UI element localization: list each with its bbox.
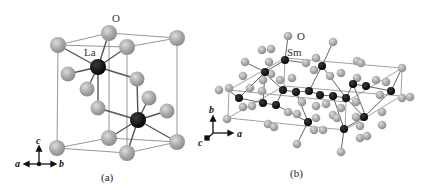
sm-atom xyxy=(259,99,267,107)
oxygen-atom xyxy=(169,30,185,46)
oxygen-atom xyxy=(91,101,106,116)
sm-atom xyxy=(235,94,243,102)
panel-b-oxygen-atoms xyxy=(215,32,415,157)
sm-atom xyxy=(261,68,269,76)
panel-a-caption: (a) xyxy=(101,171,114,184)
oxygen-label-a: O xyxy=(112,12,120,24)
panel-b: O Sm b a c (b) xyxy=(198,30,414,180)
sm-atom xyxy=(318,62,326,70)
sm-atom xyxy=(342,94,350,102)
sm-atom xyxy=(279,86,287,94)
oxygen-atom xyxy=(169,134,185,150)
axis-b-label-a: b xyxy=(59,158,64,169)
la-atom xyxy=(90,59,106,75)
oxygen-label-b: O xyxy=(297,30,305,42)
oxygen-atom xyxy=(49,140,65,156)
oxygen-atom xyxy=(50,37,66,53)
panel-a: O La c a b (a) xyxy=(15,12,185,184)
axis-c-label-a: c xyxy=(36,135,41,146)
oxygen-atom xyxy=(160,104,175,119)
samarium-label: Sm xyxy=(287,46,302,58)
sm-atom xyxy=(304,118,312,126)
lanthanum-label: La xyxy=(84,46,96,58)
axis-a-label-a: a xyxy=(15,158,20,169)
sm-atom xyxy=(362,82,370,90)
sm-atom xyxy=(360,113,368,121)
sm-atom xyxy=(305,87,313,95)
oxygen-atom xyxy=(119,145,135,161)
oxygen-atom xyxy=(101,130,117,146)
sm-atom xyxy=(349,80,357,88)
axis-c-label-b: c xyxy=(198,137,203,148)
panel-a-unit-cell xyxy=(57,33,177,153)
sm-atom xyxy=(316,91,324,99)
crystal-structure-figure: O La c a b (a) xyxy=(0,0,427,190)
oxygen-atom xyxy=(130,72,145,87)
sm-atom xyxy=(272,101,280,109)
panel-b-caption: (b) xyxy=(290,167,303,180)
sm-atom xyxy=(292,88,300,96)
axis-b-label-b: b xyxy=(209,104,214,115)
oxygen-atom xyxy=(80,82,95,97)
sm-atom xyxy=(340,125,348,133)
oxygen-atom xyxy=(142,91,157,106)
axis-a-label-b: a xyxy=(237,128,242,139)
oxygen-atom xyxy=(61,67,76,82)
sm-atom xyxy=(329,92,337,100)
la-atom xyxy=(130,112,146,128)
panel-a-bonds xyxy=(58,33,177,153)
oxygen-atom xyxy=(101,25,117,41)
oxygen-atom xyxy=(119,39,135,55)
sm-atom xyxy=(387,87,395,95)
